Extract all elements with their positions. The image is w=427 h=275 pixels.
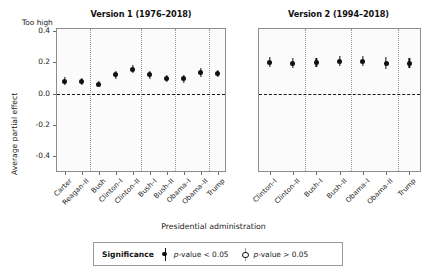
y-tick-label: -0.4: [14, 151, 50, 160]
hollow-circle-icon: [241, 248, 250, 261]
data-point[interactable]: [93, 81, 105, 88]
x-tick-mark: [133, 172, 134, 175]
term-separator-line: [351, 29, 352, 171]
panel-title-2: Version 2 (1994–2018): [256, 9, 421, 19]
data-point[interactable]: [310, 58, 322, 67]
x-tick-mark: [184, 172, 185, 175]
x-tick-mark: [65, 172, 66, 175]
y-tick-label: 0.4: [14, 26, 50, 35]
term-separator-line: [141, 29, 142, 171]
data-point[interactable]: [161, 75, 173, 82]
y-tick-label: -0.2: [14, 120, 50, 129]
panel-version-2: [258, 28, 421, 172]
x-tick-mark: [316, 172, 317, 175]
data-point[interactable]: [110, 71, 122, 80]
x-tick-mark: [218, 172, 219, 175]
filled-circle-icon: [314, 60, 319, 65]
legend-title: Significance: [102, 250, 154, 259]
x-tick-mark: [167, 172, 168, 175]
x-tick-mark: [340, 172, 341, 175]
filled-circle-icon: [161, 248, 170, 261]
chart-figure: Average partial effect Too high 0.40.20.…: [0, 0, 427, 275]
zero-reference-line: [259, 94, 420, 95]
filled-circle-icon: [267, 60, 272, 65]
data-point[interactable]: [287, 58, 299, 68]
y-tick-label: 0.2: [14, 57, 50, 66]
panel-title-1: Version 1 (1976–2018): [56, 9, 226, 19]
x-tick-mark: [116, 172, 117, 175]
x-tick-mark: [386, 172, 387, 175]
x-tick-label: Trump: [370, 177, 418, 225]
y-axis-title: Average partial effect: [10, 93, 19, 175]
filled-circle-icon: [181, 76, 186, 81]
x-tick-mark: [293, 172, 294, 175]
filled-circle-icon: [96, 82, 101, 87]
term-separator-line: [209, 29, 210, 171]
term-separator-line: [175, 29, 176, 171]
data-point[interactable]: [76, 78, 88, 85]
filled-circle-icon: [215, 71, 220, 76]
data-point[interactable]: [144, 71, 156, 79]
filled-circle-icon: [384, 61, 389, 66]
legend-item-not-significant: pp-value > 0.05-value > 0.05: [241, 248, 309, 261]
term-separator-line: [305, 29, 306, 171]
x-axis-title: Presidential administration: [0, 222, 427, 231]
x-tick-mark: [270, 172, 271, 175]
filled-circle-icon: [62, 79, 67, 84]
filled-circle-icon: [290, 61, 295, 66]
filled-circle-icon: [407, 61, 412, 66]
filled-circle-icon: [130, 67, 135, 72]
data-point[interactable]: [403, 58, 415, 69]
filled-circle-icon: [337, 59, 342, 64]
filled-circle-icon: [360, 59, 365, 64]
data-point[interactable]: [380, 57, 392, 68]
data-point[interactable]: [178, 75, 190, 83]
filled-circle-icon: [164, 76, 169, 81]
term-separator-line: [90, 29, 91, 171]
data-point[interactable]: [334, 56, 346, 65]
filled-circle-icon: [147, 72, 152, 77]
x-tick-mark: [82, 172, 83, 175]
filled-circle-icon: [198, 70, 203, 75]
zero-reference-line: [57, 94, 225, 95]
x-tick-mark: [409, 172, 410, 175]
filled-circle-icon: [113, 72, 118, 77]
x-tick-mark: [201, 172, 202, 175]
x-tick-mark: [150, 172, 151, 175]
data-point[interactable]: [264, 57, 276, 67]
data-point[interactable]: [357, 56, 369, 66]
legend-item-significant: pp-value < 0.05-value < 0.05: [161, 248, 229, 261]
filled-circle-icon: [79, 79, 84, 84]
data-point[interactable]: [127, 65, 139, 73]
y-tick-label: 0.0: [14, 89, 50, 98]
x-tick-mark: [363, 172, 364, 175]
term-separator-line: [398, 29, 399, 171]
x-tick-mark: [99, 172, 100, 175]
data-point[interactable]: [212, 70, 224, 77]
data-point[interactable]: [195, 68, 207, 76]
legend: Significance pp-value < 0.05-value < 0.0…: [93, 242, 343, 266]
data-point[interactable]: [59, 77, 71, 85]
